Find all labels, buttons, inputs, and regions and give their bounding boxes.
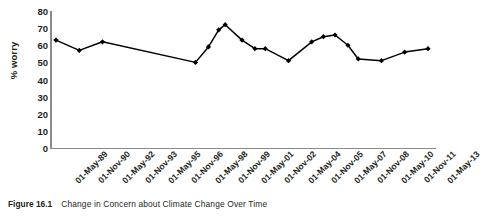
y-axis-tick-labels: 80706050403020100 [26, 0, 48, 155]
y-axis-label: % worry [8, 26, 19, 96]
y-tick-60: 60 [26, 41, 48, 50]
y-tick-20: 20 [26, 109, 48, 118]
y-tick-10: 10 [26, 126, 48, 135]
y-tick-40: 40 [26, 75, 48, 84]
data-point-2 [100, 39, 105, 44]
figure-caption: Figure 16.1Change in Concern about Clima… [8, 199, 433, 210]
series-line [56, 25, 428, 63]
y-tick-50: 50 [26, 58, 48, 67]
data-point-17 [402, 50, 407, 55]
y-tick-80: 80 [26, 7, 48, 16]
figure-number: Figure 16.1 [8, 199, 52, 209]
data-point-12 [321, 34, 326, 39]
y-tick-70: 70 [26, 24, 48, 33]
x-axis-tick-labels: 01-May-8901-Nov-9001-May-9201-Nov-9301-M… [0, 149, 439, 193]
data-point-1 [77, 48, 82, 53]
data-point-16 [379, 58, 384, 63]
line-chart: % worry 80706050403020100 01-May-8901-No… [0, 0, 439, 190]
data-point-18 [425, 46, 430, 51]
y-tick-30: 30 [26, 92, 48, 101]
figure-caption-text: Change in Concern about Climate Change O… [61, 199, 267, 209]
data-point-9 [263, 46, 268, 51]
plot-area [50, 11, 436, 148]
data-point-0 [53, 38, 58, 43]
worry-series [50, 11, 436, 148]
